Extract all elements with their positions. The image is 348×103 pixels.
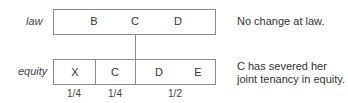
law-note: No change at law. — [237, 15, 324, 28]
equity-note-line-1: C has severed her — [237, 60, 345, 73]
equity-note-line-2: joint tenancy in equity. — [237, 73, 345, 86]
equity-divider-1 — [95, 59, 96, 85]
equity-holder-d: D — [155, 66, 163, 78]
equity-holder-c: C — [111, 66, 119, 78]
equity-divider-2 — [135, 59, 136, 85]
equity-holder-x: X — [71, 66, 78, 78]
law-holder-b: B — [90, 15, 97, 27]
share-c: 1/4 — [108, 88, 122, 99]
law-holder-d: D — [174, 15, 182, 27]
law-label: law — [26, 15, 43, 27]
equity-note: C has severed her joint tenancy in equit… — [237, 60, 345, 86]
law-holder-c: C — [131, 15, 139, 27]
share-x: 1/4 — [67, 88, 81, 99]
share-de: 1/2 — [168, 88, 182, 99]
equity-holder-e: E — [194, 66, 201, 78]
equity-label: equity — [18, 65, 47, 77]
severance-connector — [135, 34, 136, 60]
